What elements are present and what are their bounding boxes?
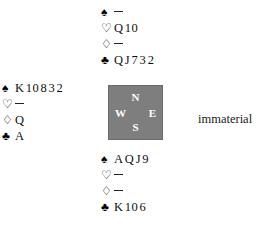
club-icon: ♣ (101, 201, 114, 213)
north-heart-row: ♡ Q10 (101, 22, 154, 38)
card-rank: A (15, 129, 24, 143)
card-rank: Q (15, 113, 24, 127)
south-club-row: ♣ K106 (101, 201, 149, 217)
card-rank: K (15, 81, 24, 95)
spade-icon: ♠ (101, 6, 114, 18)
north-spade-row: ♠ (101, 6, 154, 22)
card-rank: 2 (148, 53, 155, 67)
south-heart-row: ♡ (101, 169, 149, 185)
card-rank: 6 (139, 200, 146, 214)
card-rank: 3 (140, 53, 147, 67)
bridge-deal-diagram: ♠ ♡ Q10 ♢ ♣ QJ732 ♠ K10832 ♡ ♢ Q (0, 0, 269, 232)
south-spade-cards: AQJ9 (114, 153, 149, 166)
card-rank: 8 (40, 81, 47, 95)
card-rank: 2 (57, 81, 64, 95)
card-rank: 10 (26, 81, 39, 95)
west-club-cards: A (15, 130, 24, 143)
void-marker (114, 174, 123, 175)
north-spade-cards (114, 6, 123, 19)
card-rank: Q (114, 53, 123, 67)
heart-icon: ♡ (101, 22, 114, 34)
west-spade-row: ♠ K10832 (2, 82, 63, 98)
south-heart-cards (114, 169, 123, 182)
south-diamond-row: ♢ (101, 185, 149, 201)
compass-west-label: W (115, 107, 126, 118)
compass-south-label: S (109, 122, 162, 133)
hand-south: ♠ AQJ9 ♡ ♢ ♣ K106 (101, 153, 149, 217)
card-rank: 10 (125, 200, 138, 214)
west-diamond-cards: Q (15, 114, 24, 127)
void-marker (114, 11, 123, 12)
spade-icon: ♠ (101, 153, 114, 165)
south-spade-row: ♠ AQJ9 (101, 153, 149, 169)
diamond-icon: ♢ (101, 38, 114, 50)
card-rank: Q (125, 152, 134, 166)
north-club-cards: QJ732 (114, 54, 154, 67)
north-club-row: ♣ QJ732 (101, 54, 154, 70)
compass-north-label: N (109, 92, 162, 103)
card-rank: A (114, 152, 123, 166)
spade-icon: ♠ (2, 82, 15, 94)
hand-east: immaterial (198, 109, 252, 127)
west-diamond-row: ♢ Q (2, 114, 63, 130)
card-rank: J (136, 152, 141, 166)
club-icon: ♣ (2, 130, 15, 142)
hand-north: ♠ ♡ Q10 ♢ ♣ QJ732 (101, 6, 154, 70)
north-heart-cards: Q10 (114, 22, 138, 35)
east-hand-note: immaterial (198, 112, 252, 126)
card-rank: 3 (49, 81, 56, 95)
west-heart-cards (15, 98, 24, 111)
north-diamond-row: ♢ (101, 38, 154, 54)
card-rank: 10 (125, 21, 138, 35)
west-club-row: ♣ A (2, 130, 63, 146)
heart-icon: ♡ (2, 98, 15, 110)
void-marker (114, 190, 123, 191)
heart-icon: ♡ (101, 169, 114, 181)
hand-west: ♠ K10832 ♡ ♢ Q ♣ A (2, 82, 63, 146)
south-diamond-cards (114, 185, 123, 198)
card-rank: Q (114, 21, 123, 35)
club-icon: ♣ (101, 54, 114, 66)
diamond-icon: ♢ (2, 114, 15, 126)
card-rank: 7 (132, 53, 139, 67)
south-club-cards: K106 (114, 201, 146, 214)
diamond-icon: ♢ (101, 185, 114, 197)
north-diamond-cards (114, 38, 123, 51)
card-rank: 9 (142, 152, 149, 166)
compass-box: N W E S (108, 85, 163, 140)
void-marker (15, 103, 24, 104)
west-spade-cards: K10832 (15, 82, 63, 95)
west-heart-row: ♡ (2, 98, 63, 114)
card-rank: J (125, 53, 130, 67)
compass-east-label: E (149, 107, 156, 118)
void-marker (114, 43, 123, 44)
card-rank: K (114, 200, 123, 214)
